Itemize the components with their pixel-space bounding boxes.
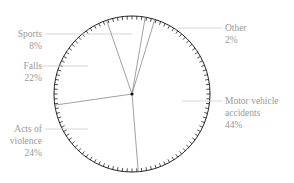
tick-mark [192,138,195,140]
tick-mark [56,113,59,114]
label-other-name: Other [225,22,247,34]
tick-mark [189,141,192,143]
tick-mark [155,165,156,168]
tick-mark [176,154,178,157]
tick-mark [155,20,156,23]
label-sports-name: Sports [0,28,42,40]
tick-mark [183,148,185,151]
tick-mark [103,21,104,24]
label-other-pct: 2% [225,34,247,46]
label-violence: Acts of violence 24% [0,123,42,159]
label-falls-name: Falls [0,60,42,72]
label-falls-pct: 22% [0,72,42,84]
leader-lines [39,28,222,129]
tick-mark [108,165,109,168]
tick-mark [59,121,62,122]
tick-mark [103,163,104,166]
label-violence-line1: Acts of [0,123,42,135]
label-falls: Falls 22% [0,60,42,84]
tick-mark [66,52,69,54]
tick-mark [94,159,96,162]
tick-mark [168,159,170,162]
tick-mark [79,148,81,151]
tick-mark [203,70,206,71]
label-violence-line2: violence [0,135,42,147]
tick-mark [58,70,61,71]
tick-mark [113,166,114,169]
tick-mark [61,61,64,62]
label-motor-line2: accidents [225,107,279,119]
slice-divider [132,94,138,172]
label-other: Other 2% [225,22,247,46]
label-sports: Sports 8% [0,28,42,52]
tick-mark [69,138,72,140]
tick-mark [72,141,75,143]
tick-mark [56,75,59,76]
tick-mark [186,41,189,43]
tick-mark [204,113,207,114]
slice-dividers [55,17,155,172]
tick-mark [99,23,100,26]
tick-mark [61,126,64,127]
tick-mark [117,167,118,170]
label-motor-pct: 44% [225,119,279,131]
tick-mark [197,56,200,58]
tick-mark [205,108,208,109]
tick-mark [146,17,147,20]
tick-mark [66,134,69,136]
tick-mark [201,121,204,122]
tick-mark [201,65,204,66]
tick-mark [199,126,202,127]
label-motor: Motor vehicle accidents 44% [225,95,279,131]
tick-mark [172,28,174,31]
tick-mark [86,31,88,34]
tick-mark [99,161,100,164]
tick-mark [64,56,67,58]
tick-mark [86,154,88,157]
tick-mark [205,79,208,80]
tick-mark [192,48,195,50]
tick-mark [151,18,152,21]
tick-mark [90,28,92,31]
tick-mark [94,26,96,29]
tick-mark [179,151,181,154]
label-violence-pct: 24% [0,147,42,159]
tick-mark [72,44,75,46]
tick-mark [113,18,114,21]
pie-chart [0,0,294,183]
tick-mark [55,108,58,109]
tick-mark [90,157,92,160]
tick-mark [159,163,160,166]
tick-mark [197,130,200,132]
tick-mark [159,21,160,24]
tick-mark [203,117,206,118]
tick-mark [183,37,185,40]
tick-mark [108,20,109,23]
slice-divider [132,17,145,94]
tick-mark [64,130,67,132]
tick-mark [164,161,165,164]
tick-mark [69,48,72,50]
tick-mark [117,17,118,20]
tick-mark [176,31,178,34]
tick-mark [179,34,181,37]
tick-mark [186,145,189,147]
tick-mark [58,117,61,118]
tick-mark [151,166,152,169]
tick-mark [199,61,202,62]
tick-mark [195,52,198,54]
tick-mark [75,145,78,147]
tick-mark [79,37,81,40]
label-sports-pct: 8% [0,40,42,52]
slice-divider [107,20,132,94]
slice-divider [55,94,132,105]
tick-mark [204,75,207,76]
tick-mark [168,26,170,29]
tick-mark [164,23,165,26]
tick-mark [189,44,192,46]
tick-mark [82,151,84,154]
pie-center-dot [130,92,133,95]
label-motor-line1: Motor vehicle [225,95,279,107]
tick-mark [55,79,58,80]
tick-mark [195,134,198,136]
